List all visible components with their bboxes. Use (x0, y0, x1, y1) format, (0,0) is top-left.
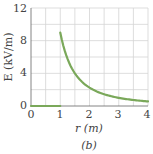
y-tick-12: 12 (13, 2, 27, 15)
x-tick-3: 3 (115, 108, 122, 121)
y-tick-0: 0 (20, 99, 27, 112)
y-axis-label: E (kV/m) (2, 33, 15, 82)
y-tick-labels: 0 4 8 12 (13, 2, 27, 112)
figure-caption: (b) (81, 139, 97, 152)
x-tick-4: 4 (144, 108, 151, 121)
x-tick-1: 1 (57, 108, 64, 121)
y-tick-4: 4 (20, 66, 27, 79)
x-tick-labels: 0 1 2 3 4 (28, 108, 151, 121)
x-tick-2: 2 (86, 108, 93, 121)
chart: 0 4 8 12 0 1 2 3 4 r (m) E (kV/m) (b) (0, 0, 153, 154)
plot-area (31, 8, 148, 106)
x-axis-label: r (m) (75, 122, 103, 135)
x-tick-0: 0 (28, 108, 35, 121)
y-tick-8: 8 (20, 34, 27, 47)
